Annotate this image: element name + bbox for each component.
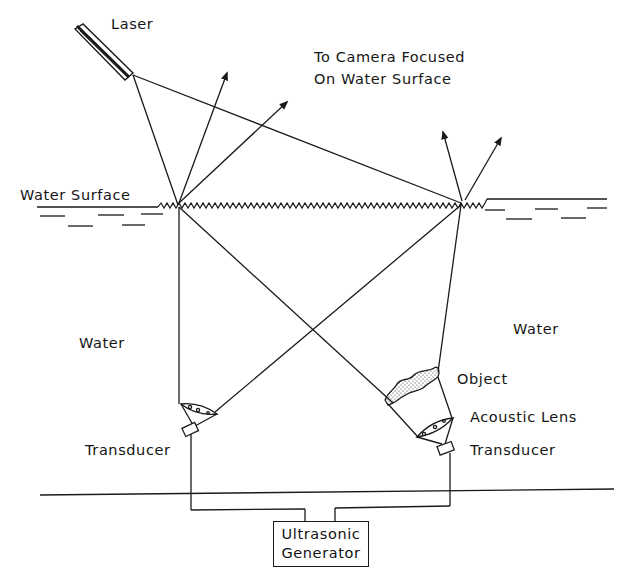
reflected-rays-left (179, 73, 287, 203)
acoustic-lens-right (417, 418, 453, 444)
laser-label: Laser (111, 15, 153, 35)
reflected-rays-right (443, 132, 501, 201)
rippled-surface (158, 199, 487, 208)
water-surface-label: Water Surface (20, 186, 131, 206)
laser-beams (133, 75, 461, 205)
object-icon (385, 367, 439, 405)
camera-label-line2: On Water Surface (314, 70, 452, 90)
tank-bottom-line (40, 489, 614, 495)
ultrasonic-generator-box: Ultrasonic Generator (273, 521, 369, 567)
water-dashes (40, 208, 607, 226)
acoustic-lens-left (181, 404, 217, 426)
water-label-left: Water (79, 334, 125, 354)
transducer-cables (191, 434, 450, 521)
transducer-left-icon (182, 422, 198, 436)
camera-label-line1: To Camera Focused (314, 48, 465, 68)
transducer-left-label: Transducer (85, 441, 171, 461)
generator-label-line1: Ultrasonic (274, 525, 368, 544)
water-label-right: Water (513, 320, 559, 340)
transducer-right-label: Transducer (470, 441, 556, 461)
object-label: Object (457, 370, 508, 390)
generator-label-line2: Generator (274, 544, 368, 563)
acoustic-lens-label: Acoustic Lens (470, 408, 577, 428)
